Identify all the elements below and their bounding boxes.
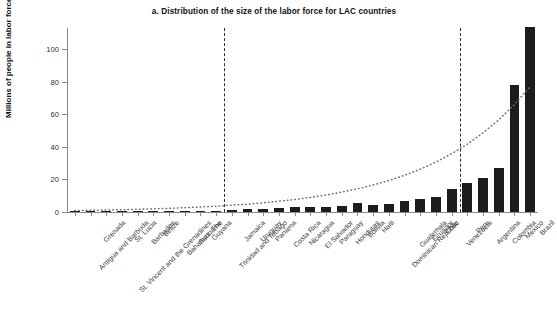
x-axis-tick xyxy=(452,212,453,216)
chart-title: a. Distribution of the size of the labor… xyxy=(0,7,548,16)
x-axis-tick xyxy=(373,212,374,216)
x-axis-tick xyxy=(483,212,484,216)
y-axis-tick-label: 40 xyxy=(51,142,59,151)
y-axis-tick-label: 100 xyxy=(46,45,59,54)
x-axis-tick xyxy=(279,212,280,216)
x-axis-tick xyxy=(295,212,296,216)
x-axis-tick xyxy=(75,212,76,216)
y-axis-label: Millions of people in labor force xyxy=(4,0,13,118)
x-axis-tick xyxy=(405,212,406,216)
x-axis-tick xyxy=(499,212,500,216)
x-axis-tick xyxy=(263,212,264,216)
x-axis-tick xyxy=(436,212,437,216)
y-axis-tick-label: 0 xyxy=(55,208,59,217)
x-axis-tick xyxy=(389,212,390,216)
x-axis-tick xyxy=(106,212,107,216)
x-axis-tick xyxy=(514,212,515,216)
x-axis-tick xyxy=(467,212,468,216)
x-axis-tick xyxy=(185,212,186,216)
y-axis-tick-label: 20 xyxy=(51,175,59,184)
x-axis-tick xyxy=(200,212,201,216)
x-axis-tick xyxy=(91,212,92,216)
x-axis-tick xyxy=(153,212,154,216)
y-axis-tick-label: 80 xyxy=(51,77,59,86)
x-axis-tick xyxy=(138,212,139,216)
x-axis-tick xyxy=(169,212,170,216)
x-axis-tick xyxy=(310,212,311,216)
x-axis-tick xyxy=(248,212,249,216)
x-axis-tick xyxy=(326,212,327,216)
x-axis-tick xyxy=(232,212,233,216)
x-axis-tick xyxy=(216,212,217,216)
y-axis-tick-label: 60 xyxy=(51,110,59,119)
x-axis-tick xyxy=(122,212,123,216)
x-axis-tick xyxy=(530,212,531,216)
y-axis-tick xyxy=(62,212,67,213)
x-axis-tick xyxy=(342,212,343,216)
x-axis-label: Belize xyxy=(162,219,181,238)
trend-curve xyxy=(67,25,538,212)
x-axis-tick xyxy=(357,212,358,216)
x-axis-tick xyxy=(420,212,421,216)
